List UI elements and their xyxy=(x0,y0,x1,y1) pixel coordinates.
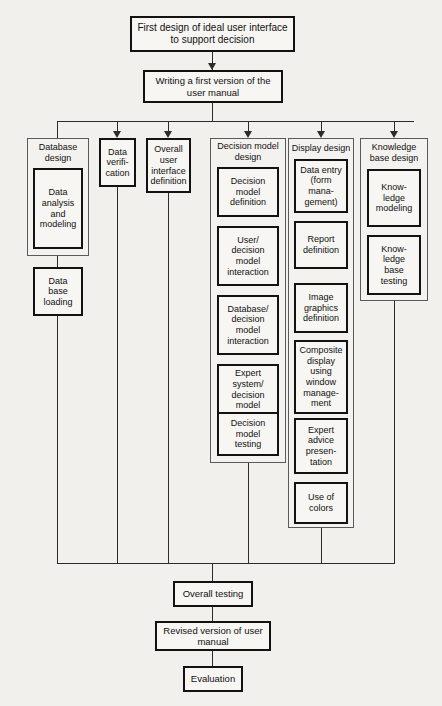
arrow-display-design xyxy=(317,131,325,138)
group-title-display-design: Display design xyxy=(288,141,354,155)
group-title-knowledge-base-design: Knowledge base design xyxy=(360,141,428,165)
box-overall-testing: Overall testing xyxy=(173,581,253,607)
box-composite-display-window-management: Composite display using window manage- m… xyxy=(294,340,348,414)
distribution-bus xyxy=(57,121,414,122)
arrow-data-verification xyxy=(113,131,121,138)
connector-overall-testing-to-revised xyxy=(212,607,213,621)
group-title-decision-model-design: Decision model design xyxy=(210,141,286,163)
box-data-verification: Data verifi- cation xyxy=(99,138,136,187)
spine-display-design xyxy=(321,528,322,563)
box-data-entry-form-management: Data entry (form mana- gement) xyxy=(294,159,348,213)
box-data-analysis-and-modeling: Data analysis and modeling xyxy=(33,168,83,249)
box-data-base-loading: Data base loading xyxy=(33,267,83,316)
box-use-of-colors: Use of colors xyxy=(294,482,348,524)
box-database-decision-model-interaction: Database/ decision model interaction xyxy=(217,295,279,355)
box-writing-first-manual: Writing a first version of the user manu… xyxy=(143,70,283,103)
box-decision-model-definition: Decision model definition xyxy=(217,167,279,217)
box-knowledge-modeling: Know- ledge modeling xyxy=(367,169,421,227)
spine-decision-model-design xyxy=(248,463,249,563)
group-title-database-design: Database design xyxy=(27,141,89,165)
box-overall-user-interface-definition: Overall user interface definition xyxy=(146,138,191,193)
connector-revised-to-evaluation xyxy=(212,651,213,666)
box-knowledge-base-testing: Know- ledge base testing xyxy=(367,235,421,295)
arrow-knowledge-base xyxy=(390,131,398,138)
box-user-decision-model-interaction: User/ decision model interaction xyxy=(217,226,279,286)
box-evaluation: Evaluation xyxy=(183,666,243,692)
branch-drop-database-design xyxy=(57,121,58,138)
connector-database-group-to-loading xyxy=(57,256,58,267)
spine-database-design xyxy=(57,316,58,563)
spine-knowledge-base-design xyxy=(394,301,395,563)
arrow-start-to-manual xyxy=(208,63,216,70)
spine-overall-ui xyxy=(168,193,169,563)
box-first-design: First design of ideal user interface to … xyxy=(130,16,295,52)
box-expert-advice-presentation: Expert advice presen- tation xyxy=(294,418,348,474)
box-report-definition: Report definition xyxy=(294,221,348,269)
arrow-decision-model xyxy=(244,131,252,138)
connector-manual-to-bus xyxy=(212,103,213,121)
connector-bus-to-overall-testing xyxy=(212,563,213,581)
arrow-overall-ui xyxy=(164,131,172,138)
spine-data-verification xyxy=(117,187,118,563)
box-decision-model-testing: Decision model testing xyxy=(217,412,279,456)
box-image-graphics-definition: Image graphics definition xyxy=(294,283,348,333)
box-revised-version-of-user-manual: Revised version of user manual xyxy=(155,621,271,651)
flowchart-canvas: First design of ideal user interface to … xyxy=(0,0,442,706)
collection-bus xyxy=(57,563,395,564)
